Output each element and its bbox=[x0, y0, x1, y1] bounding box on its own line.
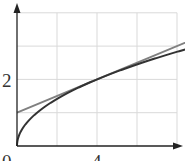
axes bbox=[14, 3, 184, 150]
sqrt-curve bbox=[17, 47, 185, 146]
origin-label: 0 bbox=[2, 151, 12, 161]
y-axis-arrow-icon bbox=[14, 3, 21, 13]
x-axis-arrow-icon bbox=[173, 143, 183, 150]
tangent-line bbox=[17, 39, 185, 112]
x-tick-label-4: 4 bbox=[92, 151, 102, 161]
data-series bbox=[17, 39, 185, 146]
y-tick-label-2: 2 bbox=[2, 70, 12, 91]
chart-canvas: y 2 0 4 bbox=[0, 0, 185, 161]
